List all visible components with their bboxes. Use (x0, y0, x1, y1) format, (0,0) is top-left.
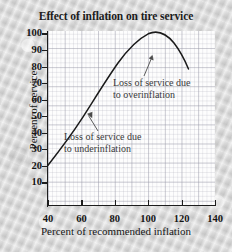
y-tick-mark-10 (42, 182, 48, 183)
plot-area (48, 31, 215, 205)
annotation-underinflation: Loss of service due to underinflation (64, 131, 141, 154)
annotation-overinflation: Loss of service due to overinflation (113, 77, 190, 100)
x-axis-line (47, 205, 216, 206)
y-tick-mark-30 (42, 149, 48, 150)
x-tick-label-120: 120 (174, 213, 190, 224)
page-title: Effect of inflation on tire service (0, 10, 232, 22)
annotation-overinflation-line1: Loss of service due (113, 77, 190, 89)
x-tick-label-40: 40 (43, 213, 54, 224)
y-axis-label: Percent of service (27, 30, 39, 190)
annotation-underinflation-line2: to underinflation (64, 143, 141, 155)
x-tick-mark-140 (215, 200, 216, 206)
annotation-overinflation-line2: to overinflation (113, 89, 190, 101)
y-tick-mark-40 (42, 133, 48, 134)
x-tick-mark-60 (81, 200, 82, 206)
y-tick-mark-100 (42, 33, 48, 34)
annotation-underinflation-line1: Loss of service due (64, 131, 141, 143)
x-tick-label-60: 60 (76, 213, 87, 224)
chart-figure: Effect of inflation on tire service 100 … (0, 0, 232, 252)
y-tick-mark-60 (42, 100, 48, 101)
x-tick-label-40-wrap: 40 (33, 208, 63, 226)
x-tick-mark-120 (182, 200, 183, 206)
x-tick-label-80-wrap: 80 (100, 208, 130, 226)
y-tick-mark-70 (42, 83, 48, 84)
x-tick-label-100: 100 (140, 213, 156, 224)
x-tick-label-140-wrap: 140 (200, 208, 230, 226)
x-tick-label-120-wrap: 120 (167, 208, 197, 226)
x-tick-label-100-wrap: 100 (133, 208, 163, 226)
x-tick-label-140: 140 (207, 213, 223, 224)
y-axis-line (47, 31, 48, 207)
x-axis-label: Percent of recommended inflation (0, 225, 232, 237)
y-tick-mark-90 (42, 50, 48, 51)
y-tick-mark-80 (42, 67, 48, 68)
x-tick-mark-80 (115, 200, 116, 206)
x-tick-mark-100 (148, 200, 149, 206)
y-tick-mark-50 (42, 116, 48, 117)
x-tick-label-60-wrap: 60 (66, 208, 96, 226)
x-tick-mark-40 (48, 200, 49, 206)
y-tick-mark-20 (42, 166, 48, 167)
x-tick-label-80: 80 (110, 213, 121, 224)
